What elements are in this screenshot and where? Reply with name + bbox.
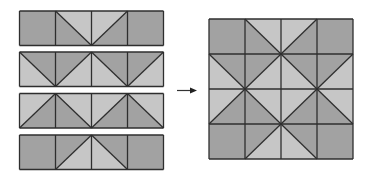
strip-2-patch-4 [128, 52, 164, 87]
grid-patch-4-4 [317, 124, 353, 159]
strip-2-patch-2 [56, 52, 92, 87]
grid-patch-3-4 [317, 89, 353, 124]
square-patch [128, 11, 164, 46]
grid-patch-4-1 [209, 124, 245, 159]
strip-3 [20, 94, 164, 129]
grid-patch-3-3 [281, 89, 317, 124]
strip-4 [20, 135, 164, 170]
grid-patch-1-2 [245, 19, 281, 54]
grid-patch-2-4 [317, 54, 353, 89]
strip-4-patch-1 [20, 135, 56, 170]
strip-2 [20, 52, 164, 87]
grid-patch-4-3 [281, 124, 317, 159]
square-patch [20, 11, 56, 46]
square-patch [317, 19, 353, 54]
grid-patch-1-4 [317, 19, 353, 54]
grid-patch-1-3 [281, 19, 317, 54]
grid-patch-2-2 [245, 54, 281, 89]
square-patch [128, 135, 164, 170]
grid-patch-2-3 [281, 54, 317, 89]
strip-2-patch-1 [20, 52, 56, 87]
grid-patch-3-2 [245, 89, 281, 124]
grid-patch-1-1 [209, 19, 245, 54]
strip-4-patch-3 [92, 135, 128, 170]
square-patch [209, 124, 245, 159]
quilt-block-diagram [0, 0, 371, 181]
strip-1-patch-1 [20, 11, 56, 46]
right-arrow-icon [177, 88, 197, 94]
assembled-block-grid [209, 19, 353, 159]
grid-patch-2-1 [209, 54, 245, 89]
strip-4-patch-2 [56, 135, 92, 170]
strip-1 [20, 11, 164, 46]
strip-3-patch-2 [56, 94, 92, 129]
square-patch [317, 124, 353, 159]
separate-strips-group [20, 11, 164, 170]
strip-3-patch-4 [128, 94, 164, 129]
strip-3-patch-1 [20, 94, 56, 129]
grid-patch-4-2 [245, 124, 281, 159]
strip-1-patch-4 [128, 11, 164, 46]
strip-1-patch-2 [56, 11, 92, 46]
square-patch [209, 19, 245, 54]
strip-4-patch-4 [128, 135, 164, 170]
strip-1-patch-3 [92, 11, 128, 46]
square-patch [20, 135, 56, 170]
grid-patch-3-1 [209, 89, 245, 124]
strip-3-patch-3 [92, 94, 128, 129]
strip-2-patch-3 [92, 52, 128, 87]
